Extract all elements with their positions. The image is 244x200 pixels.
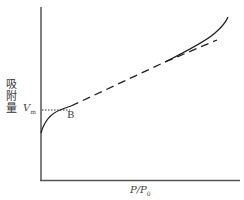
vm-label-sub: m [30, 108, 36, 115]
y-axis-label: 吸附量 [3, 78, 17, 114]
x-axis-label: P/P0 [130, 184, 151, 197]
x-axis-label-main: P/P [130, 184, 147, 195]
point-b-label: B [67, 109, 74, 120]
isotherm-chart [0, 0, 244, 200]
vm-label: Vm [23, 102, 36, 115]
isotherm-upper-curve [165, 17, 228, 62]
x-axis-label-sub: 0 [147, 190, 151, 197]
linear-extrapolation-line [71, 40, 217, 106]
